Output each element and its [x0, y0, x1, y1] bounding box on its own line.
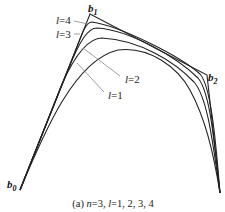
label-b0: b0 [7, 178, 17, 193]
label-l2: l=2 [125, 73, 140, 85]
leader-l1 [77, 63, 104, 92]
leader-l4 [74, 21, 88, 24]
curve-l3 [20, 28, 220, 193]
label-b2: b2 [208, 71, 218, 86]
figure-caption: (a) n=3, l=1, 2, 3, 4 [72, 198, 154, 210]
leader-l2 [83, 48, 120, 76]
bezier-diagram: b1 b2 b0 l=4 l=3 l=2 l=1 (a) n=3, l=1, 2… [0, 0, 225, 212]
label-l1: l=1 [108, 89, 123, 101]
curve-l4 [20, 22, 220, 193]
label-l3: l=3 [56, 28, 71, 40]
label-l4: l=4 [56, 14, 71, 26]
curve-l2 [20, 38, 220, 193]
